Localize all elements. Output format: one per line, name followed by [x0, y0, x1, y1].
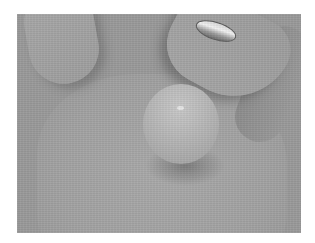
film-grain	[17, 14, 301, 233]
photograph	[17, 14, 301, 233]
